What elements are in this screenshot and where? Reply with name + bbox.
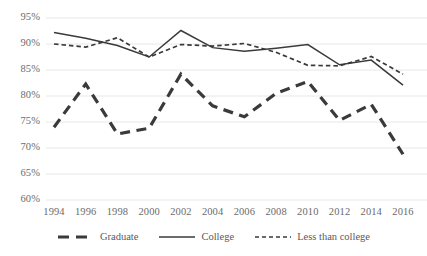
x-tick-label: 2006 (226, 206, 262, 217)
series-lines (54, 30, 403, 154)
solid-swatch (158, 232, 196, 242)
legend-label-graduate: Graduate (100, 231, 138, 242)
x-tick-label: 2008 (258, 206, 294, 217)
y-tick-label: 80% (6, 89, 40, 100)
x-tick-label: 2012 (322, 206, 358, 217)
x-tick-label: 1998 (99, 206, 135, 217)
y-tick-label: 90% (6, 37, 40, 48)
y-tick-label: 70% (6, 141, 40, 152)
x-tick-label: 2016 (385, 206, 421, 217)
legend-item-less-than-college: Less than college (254, 231, 370, 242)
legend-item-college: College (158, 231, 234, 242)
y-tick-label: 85% (6, 63, 40, 74)
y-tick-label: 65% (6, 167, 40, 178)
chart-legend: Graduate College Less than college (0, 231, 427, 242)
x-tick-label: 2010 (290, 206, 326, 217)
series-line-graduate (54, 74, 403, 154)
x-tick-label: 2014 (353, 206, 389, 217)
y-tick-label: 95% (6, 11, 40, 22)
series-line-college (54, 30, 403, 85)
legend-label-less-than-college: Less than college (297, 231, 370, 242)
x-tick-label: 2000 (131, 206, 167, 217)
legend-item-graduate: Graduate (57, 231, 138, 242)
plot-area (0, 0, 427, 256)
short-dash-swatch (254, 232, 292, 242)
x-tick-label: 2002 (163, 206, 199, 217)
long-dash-swatch (57, 232, 95, 242)
legend-label-college: College (201, 231, 234, 242)
x-tick-label: 1994 (36, 206, 72, 217)
y-tick-label: 75% (6, 115, 40, 126)
line-chart: 95%90%85%80%75%70%65%60% 199419961998200… (0, 0, 427, 256)
y-tick-label: 60% (6, 193, 40, 204)
x-tick-label: 2004 (195, 206, 231, 217)
x-tick-label: 1996 (68, 206, 104, 217)
